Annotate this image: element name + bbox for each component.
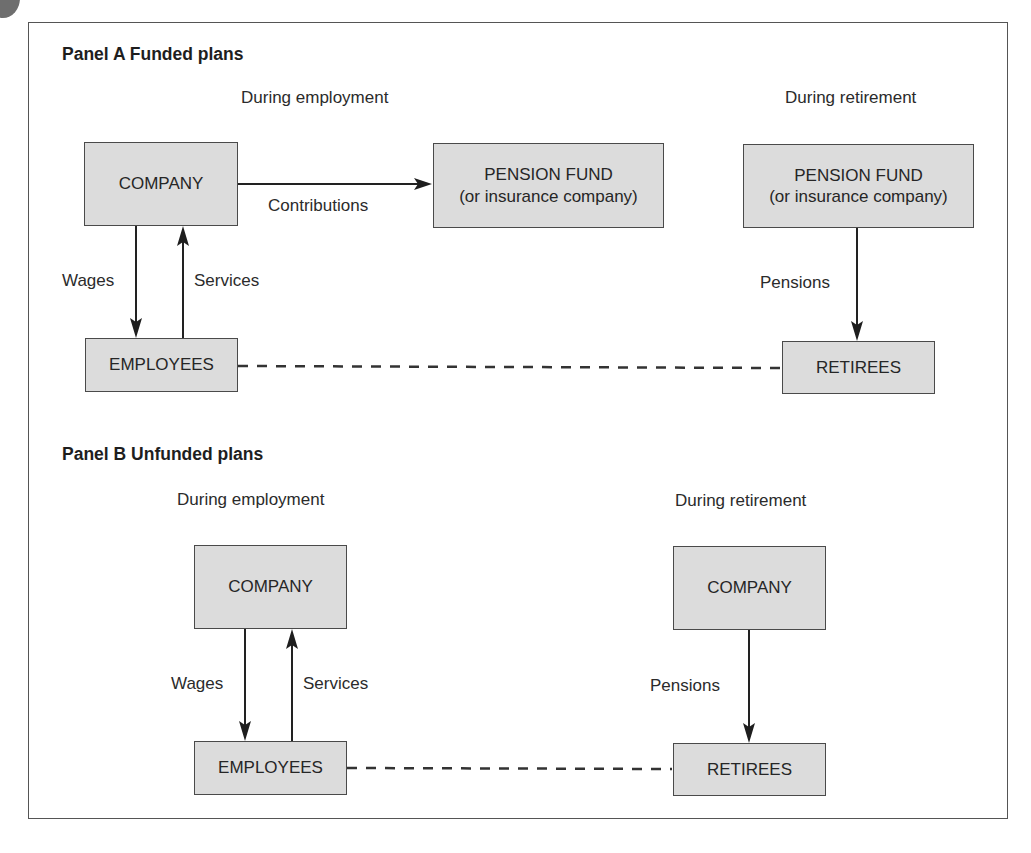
panel-a-company-box: COMPANY (84, 142, 238, 226)
panel-a-wages-label: Wages (62, 271, 114, 291)
panel-b-wages-label: Wages (171, 674, 223, 694)
retirees-label: RETIREES (707, 759, 792, 780)
panel-a-retirement-heading: During retirement (785, 88, 916, 108)
retirees-label: RETIREES (816, 357, 901, 378)
panel-b-retirees-box: RETIREES (673, 743, 826, 796)
panel-a-pension-fund-employment-box: PENSION FUND (or insurance company) (433, 143, 664, 228)
pension-fund-label: PENSION FUND (794, 165, 922, 186)
panel-a-employees-box: EMPLOYEES (85, 338, 238, 392)
company-label: COMPANY (228, 576, 313, 597)
panel-a-pension-fund-retirement-box: PENSION FUND (or insurance company) (743, 144, 974, 228)
insurance-company-label: (or insurance company) (459, 186, 638, 207)
panel-b-title: Panel B Unfunded plans (62, 444, 263, 465)
panel-a-pensions-label: Pensions (760, 273, 830, 293)
panel-a-services-label: Services (194, 271, 259, 291)
panel-b-company-employment-box: COMPANY (194, 545, 347, 629)
panel-b-company-retirement-box: COMPANY (673, 546, 826, 630)
page-corner-decoration (0, 0, 20, 18)
panel-a-title: Panel A Funded plans (62, 44, 244, 65)
company-label: COMPANY (707, 577, 792, 598)
employees-label: EMPLOYEES (109, 354, 214, 375)
company-label: COMPANY (119, 173, 204, 194)
contributions-label: Contributions (268, 196, 368, 216)
panel-b-employment-heading: During employment (177, 490, 324, 510)
panel-a-employment-heading: During employment (241, 88, 388, 108)
panel-a-retirees-box: RETIREES (782, 341, 935, 394)
pension-fund-label: PENSION FUND (484, 164, 612, 185)
panel-b-services-label: Services (303, 674, 368, 694)
panel-b-retirement-heading: During retirement (675, 491, 806, 511)
panel-b-pensions-label: Pensions (650, 676, 720, 696)
employees-label: EMPLOYEES (218, 757, 323, 778)
insurance-company-label: (or insurance company) (769, 186, 948, 207)
panel-b-employees-box: EMPLOYEES (194, 741, 347, 795)
